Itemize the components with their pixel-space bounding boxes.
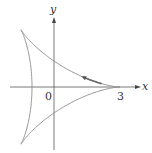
x-tick-label-3: 3 bbox=[117, 91, 124, 102]
origin-label: 0 bbox=[45, 91, 52, 102]
direction-arrow-icon bbox=[84, 77, 101, 83]
x-axis-arrow-icon bbox=[135, 85, 141, 89]
y-axis-arrow-icon bbox=[52, 17, 56, 23]
deltoid-plot bbox=[0, 0, 152, 153]
y-axis-label: y bbox=[50, 4, 56, 15]
x-axis-label: x bbox=[142, 81, 148, 92]
